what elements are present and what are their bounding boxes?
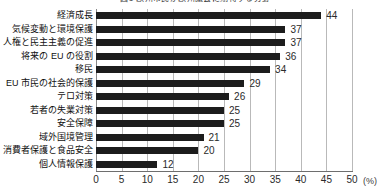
bar <box>96 53 280 60</box>
x-tick-label-20: 20 <box>186 174 210 185</box>
x-tick-label-25: 25 <box>212 174 236 185</box>
bar-value-label: 26 <box>234 90 245 104</box>
bar-value-label: 25 <box>229 104 240 118</box>
bar <box>96 107 224 114</box>
bar-row: EU 市民の社会的保護29 <box>96 77 352 91</box>
category-label: 気候変動と環境保護 <box>12 23 93 37</box>
bar-row: 域外国境管理21 <box>96 131 352 145</box>
bar-row: 消費者保護と食品安全20 <box>96 144 352 158</box>
bar-row: 個人情報保護12 <box>96 158 352 172</box>
bar <box>96 147 198 154</box>
category-label: 人権と民主主義の促進 <box>3 36 93 50</box>
bar <box>96 134 204 141</box>
bar <box>96 120 224 127</box>
category-label: 消費者保護と食品安全 <box>3 144 93 158</box>
bar-value-label: 25 <box>229 117 240 131</box>
plot-area: 経済成長44気候変動と環境保護37人権と民主主義の促進37将来の EU の役割3… <box>96 9 352 171</box>
x-tick-label-30: 30 <box>238 174 262 185</box>
bar <box>96 93 229 100</box>
category-label: 経済成長 <box>57 9 93 23</box>
bar <box>96 12 321 19</box>
bar-value-label: 29 <box>249 77 260 91</box>
category-label: EU 市民の社会的保護 <box>6 77 93 91</box>
chart-title: 図1 欧州市民が欧州議会に期待する分野 <box>0 0 391 4</box>
bar-row: テロ対策26 <box>96 90 352 104</box>
x-tick-label-50: 50 <box>340 174 364 185</box>
x-axis-line <box>96 171 353 172</box>
bar-value-label: 34 <box>275 63 286 77</box>
x-tick-label-0: 0 <box>84 174 108 185</box>
x-axis-unit-label: (%) <box>363 176 377 186</box>
bar-value-label: 12 <box>162 158 173 172</box>
x-tick-label-10: 10 <box>135 174 159 185</box>
bar-value-label: 21 <box>209 131 220 145</box>
bar-value-label: 37 <box>290 23 301 37</box>
category-label: 安全保障 <box>57 117 93 131</box>
category-label: 移民 <box>75 63 93 77</box>
bar <box>96 80 244 87</box>
category-label: 将来の EU の役割 <box>21 50 93 64</box>
x-tick-label-40: 40 <box>289 174 313 185</box>
gridline-50 <box>352 9 353 171</box>
x-tick-label-5: 5 <box>110 174 134 185</box>
x-tick-label-45: 45 <box>314 174 338 185</box>
bar-value-label: 36 <box>285 50 296 64</box>
x-tick-label-35: 35 <box>263 174 287 185</box>
bar-value-label: 37 <box>290 36 301 50</box>
bar-row: 安全保障25 <box>96 117 352 131</box>
bar-row: 経済成長44 <box>96 9 352 23</box>
bar-row: 人権と民主主義の促進37 <box>96 36 352 50</box>
chart-figure: 図1 欧州市民が欧州議会に期待する分野 経済成長44気候変動と環境保護37人権と… <box>0 0 391 194</box>
category-label: 域外国境管理 <box>39 131 93 145</box>
category-label: 個人情報保護 <box>39 158 93 172</box>
bar-row: 若者の失業対策25 <box>96 104 352 118</box>
category-label: テロ対策 <box>57 90 93 104</box>
bar <box>96 39 285 46</box>
bar <box>96 26 285 33</box>
bar-row: 将来の EU の役割36 <box>96 50 352 64</box>
x-tick-label-15: 15 <box>161 174 185 185</box>
bar-row: 気候変動と環境保護37 <box>96 23 352 37</box>
bar-value-label: 20 <box>203 144 214 158</box>
bar <box>96 161 157 168</box>
category-label: 若者の失業対策 <box>30 104 93 118</box>
bar-row: 移民34 <box>96 63 352 77</box>
bar-value-label: 44 <box>326 9 337 23</box>
bar <box>96 66 270 73</box>
